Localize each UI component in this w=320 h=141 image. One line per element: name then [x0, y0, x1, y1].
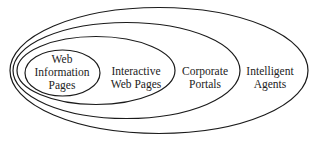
label-line: Agents: [240, 78, 300, 91]
label-line: Web Pages: [104, 78, 168, 91]
label-line: Portals: [175, 78, 235, 91]
label-line: Information: [30, 66, 94, 79]
label-line: Interactive: [104, 65, 168, 78]
label-intelligent-agents: Intelligent Agents: [240, 65, 300, 91]
label-line: Intelligent: [240, 65, 300, 78]
label-web-information-pages: Web Information Pages: [30, 53, 94, 92]
label-line: Web: [30, 53, 94, 66]
label-interactive-web-pages: Interactive Web Pages: [104, 65, 168, 91]
label-line: Corporate: [175, 65, 235, 78]
label-line: Pages: [30, 79, 94, 92]
label-corporate-portals: Corporate Portals: [175, 65, 235, 91]
